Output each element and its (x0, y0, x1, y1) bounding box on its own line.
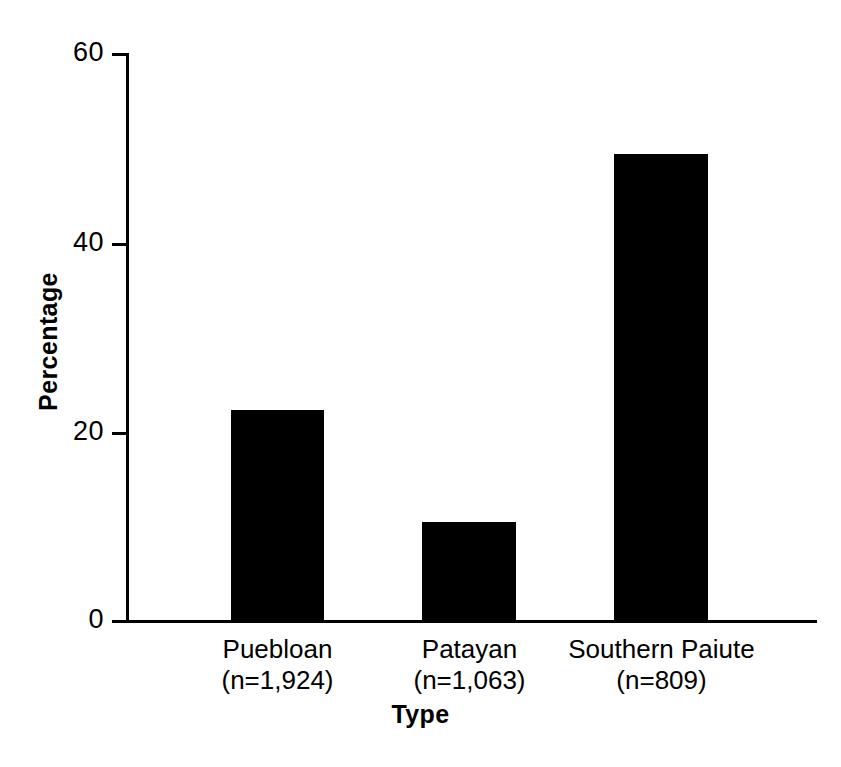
y-axis-tick-60 (112, 53, 127, 56)
y-axis-tick-label-0-wrap: 0 (0, 606, 104, 633)
x-axis-line (126, 620, 817, 623)
x-axis-title: Type (0, 700, 841, 729)
x-axis-category-name-southern-paiute: Southern Paiute (531, 634, 792, 665)
y-axis-tick-40 (112, 243, 127, 246)
x-axis-category-n-southern-paiute: (n=809) (531, 665, 792, 696)
y-axis-tick-20 (112, 432, 127, 435)
bar-patayan (422, 522, 516, 620)
y-axis-line (126, 53, 129, 623)
y-axis-tick-0 (112, 620, 127, 623)
bar-puebloan (231, 410, 324, 620)
bar-southern-paiute (614, 154, 708, 620)
y-axis-title: Percentage (34, 222, 63, 462)
y-axis-tick-label-60: 60 (4, 39, 104, 66)
y-axis-tick-label-0: 0 (4, 606, 104, 633)
y-axis-tick-label-60-wrap: 60 (0, 39, 104, 66)
x-axis-category-label-southern-paiute: Southern Paiute (n=809) (531, 634, 792, 696)
bar-chart: 60 40 20 0 Puebloan (n=1,924) Patayan (n… (0, 0, 841, 767)
